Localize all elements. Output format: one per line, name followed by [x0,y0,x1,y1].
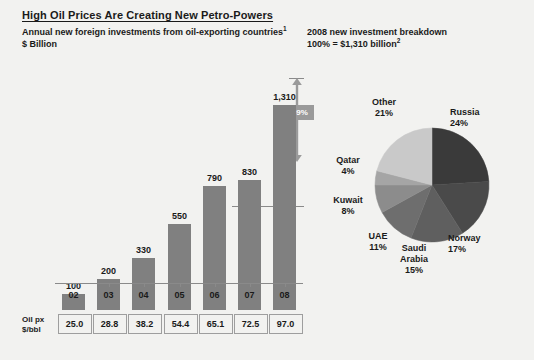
x-tick [215,283,216,287]
pie-label-uae: UAE11% [356,231,400,253]
x-label-05: 05 [165,290,195,300]
bar-value-label: 330 [132,245,155,255]
bar-column: 200 [97,27,120,310]
x-label-08: 08 [270,290,300,300]
chart-slide: High Oil Prices Are Creating New Petro-P… [0,0,534,360]
x-tick [285,283,286,287]
oil-price-cell: 28.8 [93,314,127,334]
pie-label-russia: Russia24% [450,107,510,129]
oil-price-cell: 38.2 [128,314,162,334]
oil-price-cell: 54.4 [164,314,198,334]
bar-column: 830 [238,27,261,310]
bar-value-label: 830 [238,167,261,177]
x-tick [250,283,251,287]
footnote-marker-2: 2 [397,37,401,44]
pie-label-norway: Norway17% [448,233,508,255]
bar-value-label: 1,310 [273,92,296,102]
bar-column: 1,310 [273,27,296,310]
bar-column: 330 [132,27,155,310]
oil-price-row-label-line2: $/bbl [22,325,41,334]
oil-price-row-label-line1: Oil px [22,315,44,324]
bar-column: 550 [168,27,191,310]
oil-price-cell: 65.1 [199,314,233,334]
bar-column: 790 [203,27,226,310]
oil-price-cell: 25.0 [58,314,92,334]
pie-chart: Russia24%Norway17%SaudiArabia15%UAE11%Ku… [330,95,534,295]
bar-chart: +59% 1002003305507908301,310 02030405060… [0,0,340,310]
bar-value-label: 200 [97,266,120,276]
oil-price-cell: 97.0 [269,314,303,334]
x-tick [74,283,75,287]
oil-price-cell: 72.5 [234,314,268,334]
x-label-06: 06 [200,290,230,300]
pie-label-other: Other21% [358,97,410,119]
bar-08 [273,105,296,310]
bar-value-label: 550 [168,211,191,221]
bar-value-label: 790 [203,173,226,183]
x-tick [180,283,181,287]
x-tick [109,283,110,287]
x-label-07: 07 [235,290,265,300]
x-tick [144,283,145,287]
bar-column: 100 [62,27,85,310]
pie-label-qatar: Qatar4% [324,155,372,177]
x-label-04: 04 [129,290,159,300]
x-label-02: 02 [59,290,89,300]
pie-label-kuwait: Kuwait8% [322,195,374,217]
pie-slice-russia [432,128,489,185]
x-label-03: 03 [94,290,124,300]
